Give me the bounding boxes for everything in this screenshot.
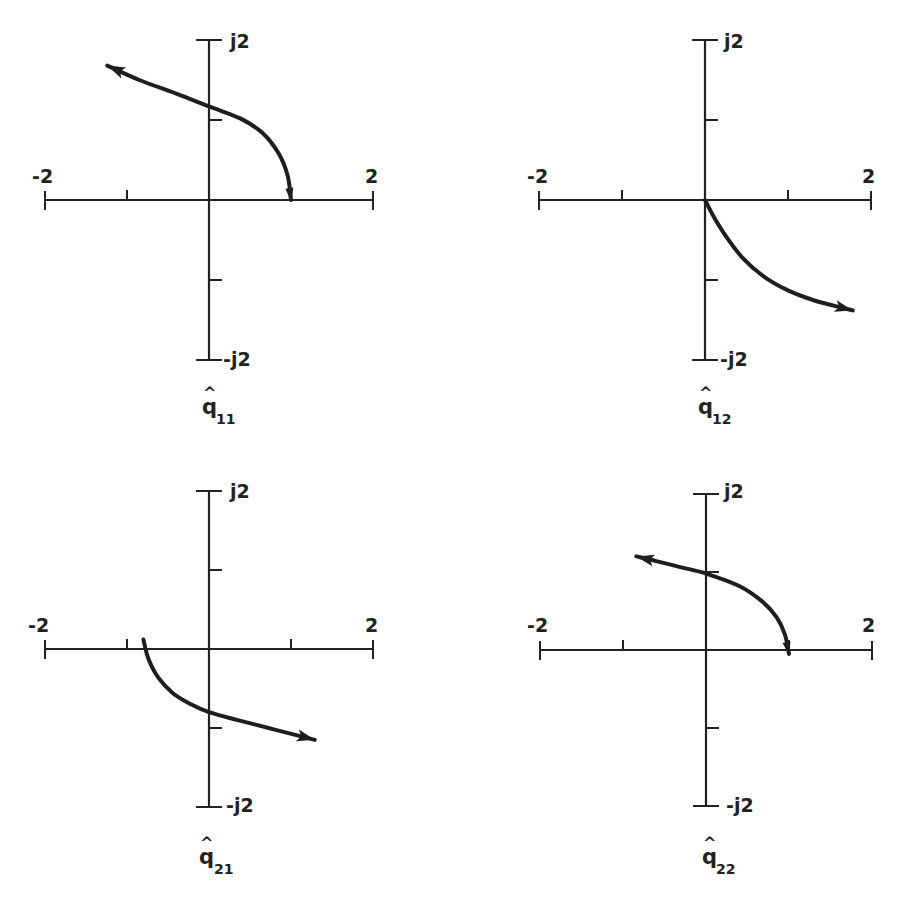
root-locus-figure: -2 2 j2 -j2 ^ q 11 -2 2 j2 -j2 ^ q 12 -2… <box>0 0 902 909</box>
title-base: q <box>702 845 717 869</box>
panel-q22: -2 2 j2 -j2 ^ q 22 <box>527 480 875 877</box>
y-tick-label-bottom: -j2 <box>726 794 754 816</box>
x-tick-label-right: 2 <box>365 614 378 636</box>
x-tick-label-left: -2 <box>28 614 49 636</box>
x-tick-label-right: 2 <box>862 165 875 187</box>
panel-q12: -2 2 j2 -j2 ^ q 12 <box>527 30 875 427</box>
axes <box>540 494 872 806</box>
title-subscript: 11 <box>216 411 235 427</box>
locus-curve <box>143 640 314 740</box>
y-tick-label-bottom: -j2 <box>720 348 748 370</box>
x-tick-label-left: -2 <box>527 165 548 187</box>
title-subscript: 22 <box>716 861 735 877</box>
axes <box>45 40 373 360</box>
x-tick-label-right: 2 <box>862 614 875 636</box>
title-base: q <box>199 845 214 869</box>
title-subscript: 12 <box>712 411 731 427</box>
panel-title: ^ q 22 <box>702 833 735 877</box>
y-tick-label-bottom: -j2 <box>223 348 251 370</box>
y-tick-label-top: j2 <box>723 480 744 502</box>
title-base: q <box>698 395 713 419</box>
axes <box>45 491 373 807</box>
x-tick-label-right: 2 <box>365 165 378 187</box>
x-tick-label-left: -2 <box>527 614 548 636</box>
y-tick-label-bottom: -j2 <box>226 794 254 816</box>
y-tick-label-top: j2 <box>723 30 744 52</box>
panel-q21: -2 2 j2 -j2 ^ q 21 <box>28 480 378 877</box>
title-subscript: 21 <box>214 861 233 877</box>
title-base: q <box>202 395 217 419</box>
arrowhead-start-icon <box>783 641 791 656</box>
panel-q11: -2 2 j2 -j2 ^ q 11 <box>32 30 378 427</box>
x-tick-label-left: -2 <box>32 165 53 187</box>
y-tick-label-top: j2 <box>229 30 250 52</box>
locus-curve <box>107 66 291 200</box>
panel-title: ^ q 21 <box>199 833 233 877</box>
y-tick-label-top: j2 <box>229 480 250 502</box>
locus-curve <box>705 200 853 310</box>
panel-title: ^ q 12 <box>698 383 731 427</box>
panel-title: ^ q 11 <box>202 383 235 427</box>
